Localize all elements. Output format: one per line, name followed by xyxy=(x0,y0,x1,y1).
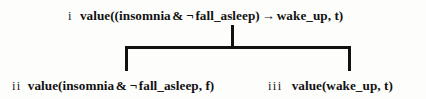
tree-node-right-child: iiivalue(wake_up, t) xyxy=(268,77,393,93)
node-numeral-right-child: iii xyxy=(268,79,283,93)
branch-bar-line xyxy=(125,46,351,49)
node-formula-root-operand: fall_asleep) xyxy=(195,8,259,23)
node-numeral-left-child: ii xyxy=(12,79,22,93)
implication-arrow-icon: → xyxy=(260,8,277,23)
node-formula-right-prefix: value(wake_up, t) xyxy=(292,78,393,93)
node-formula-root-suffix: wake_up, t) xyxy=(277,8,344,23)
proof-tree-diagram: ivalue((insomnia&¬fall_asleep)→wake_up, … xyxy=(0,0,426,99)
conjunction-operator-left: & xyxy=(114,78,128,93)
left-branch-leg-line xyxy=(125,46,128,71)
right-branch-leg-line xyxy=(348,46,351,71)
node-formula-left-operand: fall_asleep, f) xyxy=(139,78,214,93)
node-formula-left-prefix: value(insomnia xyxy=(28,78,114,93)
node-formula-root-prefix: value((insomnia xyxy=(80,8,171,23)
conjunction-operator-root: & xyxy=(171,8,185,23)
node-numeral-root: i xyxy=(68,9,73,23)
tree-node-root: ivalue((insomnia&¬fall_asleep)→wake_up, … xyxy=(68,7,343,23)
negation-operator-left: ¬ xyxy=(128,78,139,93)
tree-node-left-child: iivalue(insomnia&¬fall_asleep, f) xyxy=(12,77,214,93)
negation-operator-root: ¬ xyxy=(185,8,196,23)
